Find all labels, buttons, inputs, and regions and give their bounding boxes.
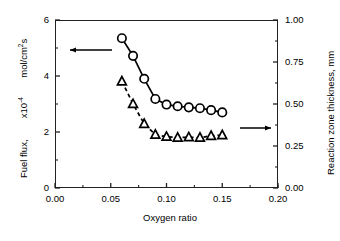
data-point-circle [140,75,148,83]
data-point-circle [196,104,204,112]
data-point-circle [118,34,126,42]
x-tick-label: 0.10 [157,194,176,204]
x-tick-label: 0.00 [46,194,65,204]
data-point-triangle [218,130,227,138]
y-left-title-exponent: -4 [17,97,24,103]
data-point-triangle [162,132,171,140]
data-point-circle [173,102,181,110]
y-left-title-fuelflux: Fuel flux, [18,139,29,178]
y-left-tick-label: 2 [29,127,49,137]
y-left-tick-label: 0 [29,183,49,193]
y-right-tick-label: 0.50 [285,99,313,109]
y-left-tick-label: 4 [29,71,49,81]
y-right-tick-label: 0.25 [285,141,313,151]
x-tick-label: 0.20 [269,194,288,204]
y-right-tick-label: 1.00 [285,15,313,25]
data-point-circle [129,52,137,60]
data-point-triangle [140,119,149,127]
y-left-title-x10: x10 [18,103,29,118]
data-point-triangle [196,133,205,141]
y-left-axis-title: Fuel flux, x10-4 mol/cm2s [18,39,29,178]
x-axis-title: Oxygen ratio [143,213,197,223]
x-tick-label: 0.05 [102,194,121,204]
chart-figure: 0.000.050.100.150.20 0246 0.000.250.500.… [0,0,340,241]
y-left-title-units-exponent: 2 [17,44,24,48]
data-point-circle [151,95,159,103]
y-right-axis-title: Reaction zone thickness, mm [326,51,336,175]
data-point-circle [218,108,226,116]
data-point-triangle [129,99,138,107]
data-point-triangle [207,131,216,139]
chart-canvas [0,0,340,241]
y-right-tick-label: 0.75 [285,57,313,67]
data-point-triangle [184,132,193,140]
y-left-tick-label: 6 [29,15,49,25]
data-point-triangle [117,77,126,85]
y-left-title-units: mol/cm [18,47,29,78]
series-line [122,38,222,112]
x-tick-label: 0.15 [213,194,232,204]
data-series-layer [117,34,226,141]
data-point-circle [185,103,193,111]
annotation-arrows [70,47,271,130]
left-axis-arrow-icon [70,47,112,52]
data-point-triangle [173,133,182,141]
right-axis-arrow-icon [240,125,271,130]
data-point-circle [162,100,170,108]
y-left-title-units-s: s [18,39,29,44]
y-right-tick-label: 0.00 [285,183,313,193]
data-point-circle [207,106,215,114]
